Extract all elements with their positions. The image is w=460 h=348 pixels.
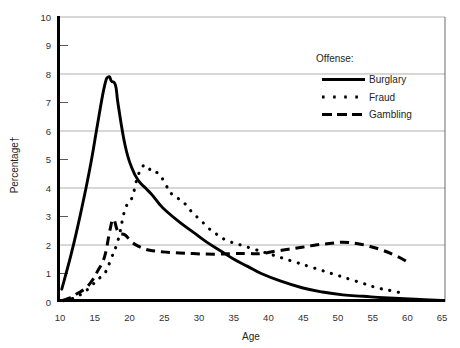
y-tick-label-3: 3 (46, 211, 51, 222)
y-tick-label-5: 5 (46, 154, 51, 165)
x-tick-label-60: 60 (402, 312, 413, 323)
y-tick-label-2: 2 (46, 240, 51, 251)
x-tick-label-10: 10 (55, 312, 66, 323)
y-tick-label-6: 6 (46, 126, 51, 137)
x-tick-label-35: 35 (228, 312, 239, 323)
x-tick-label-45: 45 (298, 312, 309, 323)
x-tick-label-50: 50 (333, 312, 344, 323)
y-tick-label-7: 7 (46, 97, 51, 108)
chart-svg: 10 9 8 7 6 5 4 3 2 1 0 10 15 20 25 30 35… (0, 0, 460, 348)
x-tick-label-40: 40 (263, 312, 274, 323)
y-tick-label-8: 8 (46, 69, 51, 80)
legend-label-burglary: Burglary (369, 74, 406, 85)
x-tick-label-20: 20 (124, 312, 135, 323)
y-axis-tick-labels: 10 9 8 7 6 5 4 3 2 1 0 (40, 12, 51, 308)
chart-figure: 10 9 8 7 6 5 4 3 2 1 0 10 15 20 25 30 35… (0, 0, 460, 348)
x-tick-label-55: 55 (367, 312, 378, 323)
y-tick-label-9: 9 (46, 40, 51, 51)
y-tick-label-4: 4 (46, 183, 51, 194)
plot-background (57, 17, 445, 302)
legend-title: Offense: (316, 53, 354, 64)
x-tick-label-30: 30 (194, 312, 205, 323)
y-tick-label-0: 0 (46, 297, 51, 308)
y-tick-label-10: 10 (40, 12, 51, 23)
x-tick-label-25: 25 (159, 312, 170, 323)
y-axis-title: Percentage† (9, 137, 20, 194)
x-tick-label-15: 15 (89, 312, 100, 323)
legend-label-gambling: Gambling (369, 109, 412, 120)
y-tick-label-1: 1 (46, 268, 51, 279)
legend-label-fraud: Fraud (369, 92, 395, 103)
x-axis-title: Age (242, 331, 260, 342)
x-tick-label-65: 65 (437, 312, 448, 323)
x-axis-tick-labels: 10 15 20 25 30 35 40 45 50 55 60 65 (55, 312, 448, 323)
